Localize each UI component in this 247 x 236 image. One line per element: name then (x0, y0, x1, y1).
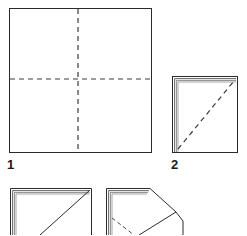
step-4-layered-edges (109, 191, 149, 235)
step-4-flap-inner-fold (139, 212, 176, 235)
step-4-flap-outline (150, 189, 183, 236)
step-3-layered-edges (13, 191, 90, 235)
step-4-square-outline (107, 189, 151, 236)
step-1-group (10, 9, 152, 153)
step-4-inner-crease-hint (112, 218, 134, 235)
step-2-square-outline (173, 77, 238, 153)
diagram-canvas (0, 0, 247, 235)
origami-instruction-diagram: 1 2 (0, 0, 247, 235)
step-3-group (11, 189, 92, 236)
step-3-square-outline (11, 189, 92, 236)
step-number-2: 2 (171, 158, 178, 171)
step-2-group (173, 77, 238, 153)
step-number-1: 1 (7, 158, 14, 171)
step-1-square-outline (10, 9, 152, 153)
step-4-group (107, 189, 184, 236)
step-3-diagonal-fold (40, 190, 90, 235)
